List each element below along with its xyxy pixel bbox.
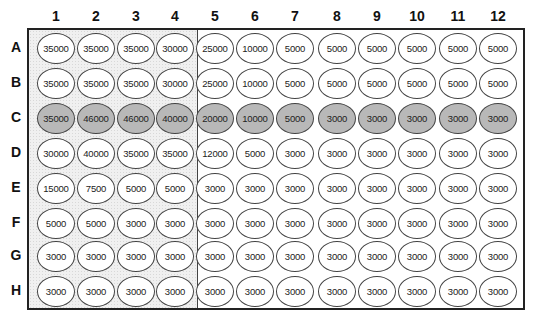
well-B5: 25000 — [196, 68, 234, 99]
well-A3: 35000 — [117, 33, 155, 64]
well-C12: 3000 — [479, 103, 517, 134]
row-label-D: D — [8, 144, 24, 160]
well-F12: 3000 — [479, 208, 517, 239]
well-H5: 3000 — [196, 276, 234, 307]
well-F9: 3000 — [358, 208, 396, 239]
well-A5: 25000 — [196, 33, 234, 64]
column-label-5: 5 — [200, 8, 230, 24]
well-E12: 3000 — [479, 173, 517, 204]
well-H9: 3000 — [358, 276, 396, 307]
well-C7: 5000 — [276, 103, 314, 134]
well-D11: 3000 — [439, 138, 477, 169]
well-D4: 35000 — [156, 138, 194, 169]
well-F1: 5000 — [37, 208, 75, 239]
well-D2: 40000 — [77, 138, 115, 169]
well-G6: 3000 — [236, 241, 274, 272]
row-label-H: H — [8, 282, 24, 298]
well-F7: 3000 — [276, 208, 314, 239]
well-D7: 3000 — [276, 138, 314, 169]
well-G10: 3000 — [398, 241, 436, 272]
well-D3: 35000 — [117, 138, 155, 169]
well-F2: 5000 — [77, 208, 115, 239]
well-C4: 40000 — [156, 103, 194, 134]
row-label-F: F — [8, 214, 24, 230]
column-label-7: 7 — [280, 8, 310, 24]
well-H4: 3000 — [156, 276, 194, 307]
row-label-C: C — [8, 109, 24, 125]
well-G4: 3000 — [156, 241, 194, 272]
column-label-10: 10 — [402, 8, 432, 24]
plate-frame: 3500035000350003000025000100005000500050… — [27, 28, 525, 310]
well-F5: 3000 — [196, 208, 234, 239]
well-B6: 10000 — [236, 68, 274, 99]
well-B2: 35000 — [77, 68, 115, 99]
well-E11: 3000 — [439, 173, 477, 204]
well-G11: 3000 — [439, 241, 477, 272]
well-A7: 5000 — [276, 33, 314, 64]
well-C10: 3000 — [398, 103, 436, 134]
well-E3: 5000 — [117, 173, 155, 204]
well-F3: 3000 — [117, 208, 155, 239]
well-F8: 3000 — [318, 208, 356, 239]
well-C11: 3000 — [439, 103, 477, 134]
column-label-1: 1 — [41, 8, 71, 24]
well-A6: 10000 — [236, 33, 274, 64]
column-label-4: 4 — [160, 8, 190, 24]
well-A11: 5000 — [439, 33, 477, 64]
well-A4: 30000 — [156, 33, 194, 64]
well-C1: 35000 — [37, 103, 75, 134]
well-F4: 3000 — [156, 208, 194, 239]
well-H11: 3000 — [439, 276, 477, 307]
region-divider-line — [197, 30, 198, 308]
well-H8: 3000 — [318, 276, 356, 307]
well-F6: 3000 — [236, 208, 274, 239]
well-E9: 3000 — [358, 173, 396, 204]
well-C5: 20000 — [196, 103, 234, 134]
column-label-11: 11 — [443, 8, 473, 24]
well-B3: 35000 — [117, 68, 155, 99]
well-A10: 5000 — [398, 33, 436, 64]
well-D10: 3000 — [398, 138, 436, 169]
well-H7: 3000 — [276, 276, 314, 307]
well-B10: 5000 — [398, 68, 436, 99]
well-E10: 3000 — [398, 173, 436, 204]
well-G12: 3000 — [479, 241, 517, 272]
well-E2: 7500 — [77, 173, 115, 204]
row-label-E: E — [8, 179, 24, 195]
well-G2: 3000 — [77, 241, 115, 272]
well-C6: 10000 — [236, 103, 274, 134]
column-label-9: 9 — [362, 8, 392, 24]
well-G8: 3000 — [318, 241, 356, 272]
well-D8: 3000 — [318, 138, 356, 169]
well-B7: 5000 — [276, 68, 314, 99]
well-A2: 35000 — [77, 33, 115, 64]
well-H3: 3000 — [117, 276, 155, 307]
well-B4: 30000 — [156, 68, 194, 99]
column-label-6: 6 — [240, 8, 270, 24]
well-A8: 5000 — [318, 33, 356, 64]
well-B8: 5000 — [318, 68, 356, 99]
well-E8: 3000 — [318, 173, 356, 204]
well-H12: 3000 — [479, 276, 517, 307]
well-A1: 35000 — [37, 33, 75, 64]
well-F10: 3000 — [398, 208, 436, 239]
row-label-A: A — [8, 39, 24, 55]
well-H2: 3000 — [77, 276, 115, 307]
well-E5: 3000 — [196, 173, 234, 204]
well-H1: 3000 — [37, 276, 75, 307]
well-G9: 3000 — [358, 241, 396, 272]
well-B1: 35000 — [37, 68, 75, 99]
column-label-12: 12 — [483, 8, 513, 24]
well-C8: 3000 — [318, 103, 356, 134]
well-B12: 5000 — [479, 68, 517, 99]
row-label-B: B — [8, 74, 24, 90]
well-H6: 3000 — [236, 276, 274, 307]
well-E6: 3000 — [236, 173, 274, 204]
well-D12: 3000 — [479, 138, 517, 169]
well-G5: 3000 — [196, 241, 234, 272]
well-C3: 46000 — [117, 103, 155, 134]
well-H10: 3000 — [398, 276, 436, 307]
well-D9: 3000 — [358, 138, 396, 169]
well-D5: 12000 — [196, 138, 234, 169]
column-label-3: 3 — [121, 8, 151, 24]
